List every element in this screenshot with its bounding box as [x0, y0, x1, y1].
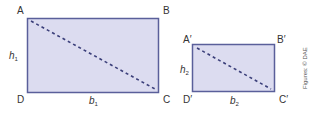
- vertex-a: A: [17, 5, 24, 16]
- similar-rectangles-diagram: A B C D h1 b1 A′ B′ C′ D′ h2 b2 Figures:…: [0, 0, 323, 113]
- vertex-a-prime: A′: [183, 34, 192, 45]
- figure-credit: Figures: © DAE: [302, 47, 308, 89]
- rectangle-a2b2c2d2: A′ B′ C′ D′ h2 b2: [180, 34, 288, 107]
- vertex-c: C: [163, 94, 170, 105]
- vertex-c-prime: C′: [279, 94, 288, 105]
- vertex-d: D: [17, 94, 24, 105]
- vertex-b: B: [163, 5, 170, 16]
- height-label-h2: h2: [180, 64, 190, 76]
- height-label-h1: h1: [9, 50, 19, 62]
- rectangle-abcd: A B C D h1 b1: [9, 5, 170, 107]
- base-label-b2: b2: [230, 95, 240, 107]
- vertex-d-prime: D′: [183, 94, 192, 105]
- base-label-b1: b1: [89, 95, 99, 107]
- vertex-b-prime: B′: [277, 34, 286, 45]
